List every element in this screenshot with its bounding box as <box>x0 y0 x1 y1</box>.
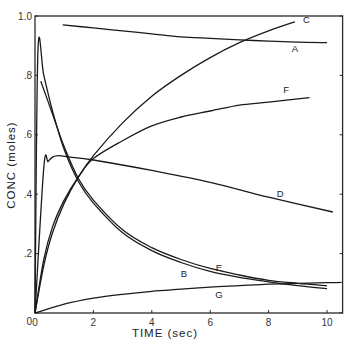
curves <box>35 22 342 313</box>
y-tick-label: .6 <box>24 129 33 140</box>
y-tick-label: .2 <box>24 248 33 259</box>
x-tick-label: 0 <box>32 317 38 328</box>
curve-e <box>41 81 327 285</box>
y-tick-label: .4 <box>24 189 33 200</box>
curve-a <box>63 25 327 43</box>
plot-border <box>35 16 343 313</box>
plot-frame <box>35 16 343 313</box>
y-tick-label: 0 <box>26 316 32 327</box>
curve-labels: ABCDEFG <box>181 14 310 300</box>
curve-label-b: B <box>181 268 187 279</box>
curve-label-c: C <box>303 14 310 25</box>
y-axis-title: CONC (moles) <box>5 121 17 208</box>
concentration-time-chart: 0246810 0.2.4.6.81.0 ABCDEFG TIME (sec) … <box>0 0 353 345</box>
curve-c <box>35 22 295 313</box>
curve-label-f: F <box>283 84 289 95</box>
x-tick-label: 2 <box>91 317 97 328</box>
y-axis: 0.2.4.6.81.0 <box>18 11 343 328</box>
x-axis-title: TIME (sec) <box>132 327 198 339</box>
y-tick-label: .8 <box>24 70 33 81</box>
x-tick-label: 8 <box>266 317 272 328</box>
x-tick-label: 10 <box>321 317 333 328</box>
curve-label-g: G <box>215 289 222 300</box>
x-tick-label: 6 <box>207 317 213 328</box>
curve-label-a: A <box>292 43 299 54</box>
y-tick-label: 1.0 <box>18 11 32 22</box>
curve-g <box>35 282 342 313</box>
curve-label-d: D <box>277 188 284 199</box>
curve-label-e: E <box>216 262 222 273</box>
